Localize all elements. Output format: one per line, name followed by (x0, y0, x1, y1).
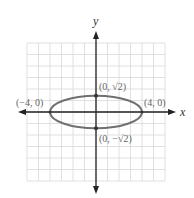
point-right (141, 111, 144, 114)
y-axis-arrow-up-icon (93, 31, 99, 39)
x-axis-arrow-right-icon (168, 109, 176, 115)
point-label-top: (0, √2) (99, 81, 126, 93)
y-axis-arrow-down-icon (93, 186, 99, 194)
y-axis-label: y (92, 14, 99, 28)
x-axis-label: x (179, 105, 186, 119)
point-label-left: (−4, 0) (16, 97, 43, 109)
point-label-right: (4, 0) (144, 97, 166, 109)
point-top (94, 94, 98, 98)
x-axis-arrow-left-icon (18, 109, 26, 115)
point-left (49, 111, 52, 114)
ellipse-graph: y x (−4, 0) (4, 0) (0, √2) (0, −√2) (0, 0, 194, 198)
point-bottom (94, 126, 98, 130)
point-label-bottom: (0, −√2) (99, 133, 132, 145)
